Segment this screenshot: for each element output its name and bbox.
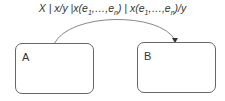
state-b[interactable]: B [137, 42, 216, 93]
state-a[interactable]: A [15, 43, 94, 94]
state-b-label: B [144, 50, 151, 62]
state-a-label: A [22, 51, 29, 63]
